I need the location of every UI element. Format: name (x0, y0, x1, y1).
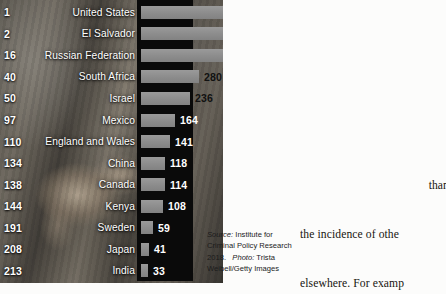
rank-label: 213 (4, 260, 32, 282)
bar-group: 141 (141, 131, 193, 153)
source-credit: Source: Institute for Criminal Policy Re… (207, 229, 299, 274)
rank-label: 134 (4, 152, 32, 174)
article-line: n (300, 129, 446, 145)
country-label: Canada (32, 174, 135, 196)
chart-row: 97Mexico164 (0, 109, 223, 131)
bar (141, 70, 199, 83)
bar (141, 221, 153, 234)
country-label: Kenya (32, 195, 135, 217)
bar (141, 114, 175, 127)
chart-row: 208Japan41 (0, 239, 223, 261)
chart-row: 134China118 (0, 152, 223, 174)
value-label: 33 (153, 265, 165, 277)
source-line2: Criminal Policy Research (207, 241, 292, 250)
bar-group: 236 (141, 88, 213, 110)
chart-row: 16Russian Federation397 (0, 45, 223, 67)
country-label: Mexico (32, 109, 135, 131)
chart-row: 40South Africa280 (0, 66, 223, 88)
incarceration-rate-bar-chart: 1United States2El Salvador60416Russian F… (0, 0, 223, 283)
value-label: 118 (170, 157, 187, 169)
rank-label: 2 (4, 23, 32, 45)
rank-label: 16 (4, 45, 32, 67)
rank-label: 144 (4, 195, 32, 217)
chart-row: 144Kenya108 (0, 195, 223, 217)
bar-group: 397 (141, 45, 223, 67)
chart-row: 50Israel236 (0, 88, 223, 110)
rank-label: 40 (4, 66, 32, 88)
country-label: Israel (32, 88, 135, 110)
value-label: 41 (154, 243, 166, 255)
bar (141, 157, 165, 170)
country-label: El Salvador (32, 23, 135, 45)
value-label: 114 (170, 179, 187, 191)
bar (141, 264, 148, 277)
value-label: 164 (180, 114, 198, 126)
article-line: the incidence of othe (300, 227, 446, 243)
bar-group: 41 (141, 239, 166, 261)
country-label: Sweden (32, 217, 135, 239)
article-line: than (300, 178, 446, 194)
value-label: 108 (168, 200, 186, 212)
rank-label: 97 (4, 109, 32, 131)
bar (141, 243, 149, 256)
rank-label: 191 (4, 217, 32, 239)
bar (141, 6, 223, 19)
source-label: Source: (207, 230, 233, 239)
rank-label: 138 (4, 174, 32, 196)
bar (141, 178, 165, 191)
rank-label: 50 (4, 88, 32, 110)
bar (141, 200, 163, 213)
article-page: n than the incidence of othe elsewhere. … (0, 0, 446, 294)
rank-label: 1 (4, 2, 32, 24)
bar-group: 280 (141, 66, 222, 88)
chart-row: 2El Salvador604 (0, 23, 223, 45)
bar-group: 164 (141, 109, 198, 131)
chart-row: 213India33 (0, 260, 223, 282)
country-label: China (32, 152, 135, 174)
bar-group (141, 2, 223, 24)
chart-row: 138Canada114 (0, 174, 223, 196)
chart-row: 191Sweden59 (0, 217, 223, 239)
country-label: India (32, 260, 135, 282)
rank-label: 208 (4, 239, 32, 261)
bar (141, 27, 223, 40)
bar-group: 118 (141, 152, 187, 174)
source-line4: Weibell/Getty Images (207, 264, 279, 273)
bar-group: 114 (141, 174, 187, 196)
photo-label: Photo: (232, 253, 254, 262)
article-body-text: n than the incidence of othe elsewhere. … (300, 96, 446, 294)
source-year: 2018. (207, 253, 226, 262)
bar-group: 33 (141, 260, 165, 282)
country-label: South Africa (32, 66, 135, 88)
value-label: 59 (158, 222, 170, 234)
country-label: United States (32, 2, 135, 24)
bar-group: 108 (141, 195, 186, 217)
value-label: 141 (175, 136, 193, 148)
country-label: Russian Federation (32, 45, 135, 67)
rank-label: 110 (4, 131, 32, 153)
bar (141, 135, 170, 148)
country-label: England and Wales (32, 131, 135, 153)
bar (141, 49, 223, 62)
value-label: 280 (204, 71, 222, 83)
article-line: elsewhere. For examp (300, 276, 446, 292)
source-org: Institute for (233, 230, 273, 239)
chart-row: 1United States (0, 2, 223, 24)
country-label: Japan (32, 239, 135, 261)
bar-group: 604 (141, 23, 223, 45)
value-label: 236 (195, 92, 213, 104)
bar (141, 92, 190, 105)
chart-row: 110England and Wales141 (0, 131, 223, 153)
photo-credit: Trista (254, 253, 275, 262)
bar-group: 59 (141, 217, 170, 239)
